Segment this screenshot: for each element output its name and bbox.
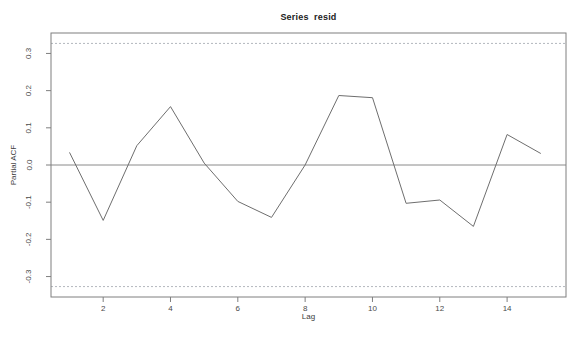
x-tick-label: 2: [101, 304, 106, 313]
pacf-chart: 2468101214-0.3-0.2-0.10.00.10.20.3: [0, 0, 583, 342]
y-tick-label: 0.2: [25, 85, 34, 97]
x-tick-label: 12: [435, 304, 444, 313]
x-tick-label: 6: [236, 304, 241, 313]
y-tick-label: 0.3: [25, 47, 34, 59]
x-tick-label: 14: [503, 304, 512, 313]
y-tick-label: 0.1: [24, 122, 33, 134]
x-tick-label: 10: [368, 304, 377, 313]
y-tick-label: -0.2: [25, 232, 34, 246]
y-tick-label: 0.0: [25, 159, 34, 171]
x-tick-label: 8: [303, 304, 308, 313]
x-tick-label: 4: [168, 304, 173, 313]
pacf-data-line: [70, 96, 541, 227]
y-tick-label: -0.3: [25, 269, 34, 283]
plot-figure: Series resid Partial ACF Lag 2468101214-…: [0, 0, 583, 342]
y-tick-label: -0.1: [25, 195, 34, 209]
